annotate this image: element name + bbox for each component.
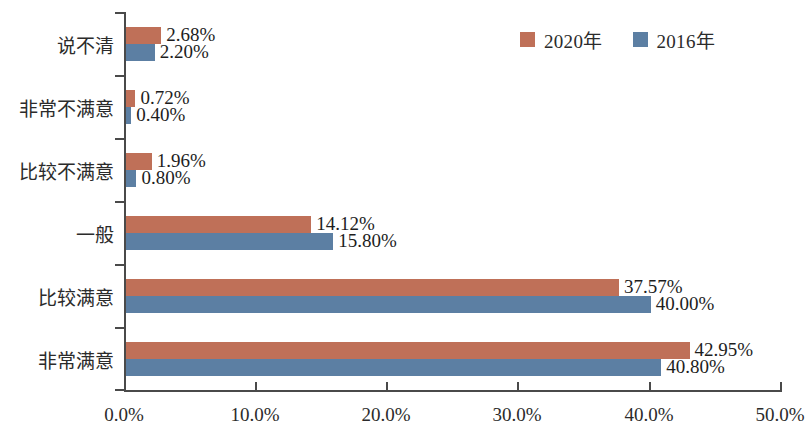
bar-value-2016: 0.80% [136, 169, 190, 186]
bar-2020 [126, 216, 311, 233]
category-label-bijiaobumanyi: 比较不满意 [19, 156, 114, 190]
x-axis-tick [255, 382, 257, 391]
bar-2016 [126, 296, 651, 313]
plot-area: 0.0% 10.0% 20.0% 30.0% 40.0% 50.0% 2.68%… [124, 12, 780, 390]
bar-value-2016: 2.20% [155, 43, 209, 60]
x-axis-tick-label: 30.0% [492, 404, 541, 426]
bar-chart: 2020年 2016年 说不清 非常不满意 比较不满意 一般 比较满意 非常满意 [0, 0, 806, 426]
y-axis-tick [115, 327, 124, 329]
bar-2020 [126, 279, 619, 296]
y-axis-tick [115, 12, 124, 14]
bar-group-yiban: 14.12% 15.80% [124, 216, 780, 250]
bar-2020 [126, 90, 135, 107]
bar-group-feichangmanyi: 42.95% 40.80% [124, 342, 780, 376]
bar-2016 [126, 170, 136, 187]
category-label-shuobuqing: 说不清 [57, 30, 114, 64]
y-axis-tick [115, 201, 124, 203]
x-axis-tick-label: 40.0% [624, 404, 673, 426]
bar-2020 [126, 342, 690, 359]
bar-group-shuobuqing: 2.68% 2.20% [124, 27, 780, 61]
bar-group-bijiaobumanyi: 1.96% 0.80% [124, 153, 780, 187]
x-axis-line [124, 390, 782, 392]
x-axis-tick [517, 382, 519, 391]
x-axis-tick-label: 20.0% [361, 404, 410, 426]
x-axis-tick-label: 10.0% [230, 404, 279, 426]
bar-value-2016: 40.80% [661, 358, 725, 375]
y-axis-tick [115, 264, 124, 266]
x-axis-tick-label: 0.0% [104, 404, 144, 426]
bar-value-2016: 15.80% [333, 232, 397, 249]
category-label-feichangmanyi: 非常满意 [38, 345, 114, 379]
x-axis-tick [124, 382, 126, 391]
y-axis-tick [115, 138, 124, 140]
x-axis-tick [386, 382, 388, 391]
bar-value-2016: 40.00% [651, 295, 715, 312]
x-axis-tick [649, 382, 651, 391]
bar-group-bijiaomanyi: 37.57% 40.00% [124, 279, 780, 313]
category-axis-labels: 说不清 非常不满意 比较不满意 一般 比较满意 非常满意 [0, 12, 124, 390]
bar-2016 [126, 359, 661, 376]
category-label-yiban: 一般 [76, 219, 114, 253]
bar-2020 [126, 27, 161, 44]
category-label-feichangbumanyi: 非常不满意 [19, 93, 114, 127]
y-axis-line [124, 12, 126, 390]
bar-value-2016: 0.40% [131, 106, 185, 123]
y-axis-tick [115, 75, 124, 77]
category-label-bijiaomanyi: 比较满意 [38, 282, 114, 316]
bar-group-feichangbumanyi: 0.72% 0.40% [124, 90, 780, 124]
y-axis-tick [115, 389, 124, 391]
bar-2016 [126, 233, 333, 250]
x-axis-tick-label: 50.0% [755, 404, 804, 426]
bar-2016 [126, 44, 155, 61]
x-axis-tick [780, 382, 782, 391]
